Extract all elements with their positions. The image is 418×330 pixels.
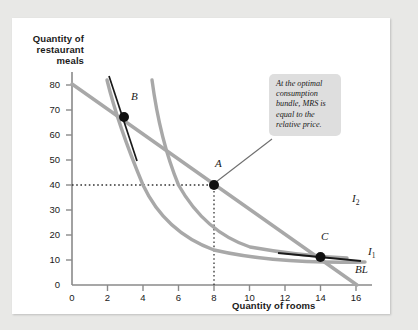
x-tick-label-2: 2	[98, 292, 118, 303]
curve-label-i1: I1	[368, 245, 375, 260]
point-label-a: A	[215, 157, 222, 169]
curve-label-bl: BL	[355, 263, 368, 275]
y-tick-label-50: 50	[38, 154, 60, 165]
x-tick-label-12: 12	[275, 292, 295, 303]
curve-label-i2-sub: 2	[356, 198, 360, 207]
x-axis-ticks	[108, 285, 357, 291]
x-tick-label-4: 4	[133, 292, 153, 303]
y-axis-title-line1: Quantity of	[6, 33, 84, 44]
callout-leader-line	[216, 139, 272, 182]
y-tick-label-60: 60	[38, 129, 60, 140]
y-axis-title-line2: restaurant	[6, 44, 84, 55]
x-tick-label-10: 10	[240, 292, 260, 303]
x-tick-label-0: 0	[62, 292, 82, 303]
y-axis-ticks	[66, 85, 72, 260]
y-tick-label-0: 0	[38, 279, 60, 290]
point-label-b: B	[131, 90, 138, 102]
curve-label-i1-sub: 1	[372, 251, 376, 260]
y-tick-label-30: 30	[38, 204, 60, 215]
x-tick-label-14: 14	[311, 292, 331, 303]
x-tick-label-8: 8	[204, 292, 224, 303]
data-point-c[interactable]	[316, 252, 326, 262]
y-tick-label-80: 80	[38, 79, 60, 90]
y-tick-label-40: 40	[38, 179, 60, 190]
y-axis-title: Quantity of restaurant meals	[6, 33, 84, 66]
y-tick-label-10: 10	[38, 254, 60, 265]
y-tick-label-20: 20	[38, 229, 60, 240]
curve-label-i2: I2	[352, 192, 359, 207]
y-tick-label-70: 70	[38, 104, 60, 115]
data-point-a[interactable]	[209, 180, 219, 190]
callout-annotation: At the optimal consumption bundle, MRS i…	[269, 74, 341, 136]
y-axis-title-line3: meals	[6, 55, 84, 66]
figure-container: Quantity of restaurant meals Quantity of…	[0, 0, 418, 330]
data-point-b[interactable]	[119, 112, 129, 122]
point-label-c: C	[321, 230, 328, 242]
x-tick-label-16: 16	[346, 292, 366, 303]
x-tick-label-6: 6	[169, 292, 189, 303]
